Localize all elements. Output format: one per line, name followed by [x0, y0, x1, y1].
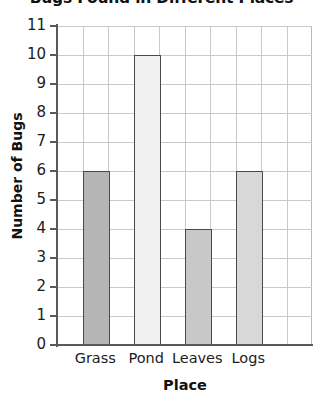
bar-pond	[134, 55, 161, 345]
bar-grass	[83, 171, 110, 345]
y-tick-4	[50, 228, 57, 230]
plot-area	[57, 26, 312, 345]
y-tick-label-3: 3	[20, 250, 46, 265]
y-axis-line	[56, 24, 58, 347]
y-tick-11	[50, 25, 57, 27]
x-axis-label: Place	[57, 377, 313, 393]
y-tick-label-0: 0	[20, 337, 46, 352]
plot-right-border	[311, 26, 312, 345]
y-tick-10	[50, 54, 57, 56]
y-tick-label-1: 1	[20, 308, 46, 323]
y-tick-label-11: 11	[20, 18, 46, 33]
chart-title: Bugs Found in Different Places	[0, 0, 323, 7]
y-tick-label-6: 6	[20, 163, 46, 178]
y-tick-7	[50, 141, 57, 143]
bar-logs	[236, 171, 263, 345]
y-tick-8	[50, 112, 57, 114]
y-tick-2	[50, 286, 57, 288]
y-tick-5	[50, 199, 57, 201]
y-tick-label-8: 8	[20, 105, 46, 120]
bar-leaves	[185, 229, 212, 345]
y-tick-0	[50, 344, 57, 346]
y-tick-label-9: 9	[20, 76, 46, 91]
y-tick-label-5: 5	[20, 192, 46, 207]
y-tick-1	[50, 315, 57, 317]
y-tick-6	[50, 170, 57, 172]
y-tick-label-10: 10	[20, 47, 46, 62]
y-tick-9	[50, 83, 57, 85]
x-axis-line	[50, 344, 313, 346]
y-tick-label-4: 4	[20, 221, 46, 236]
bar-chart: Bugs Found in Different Places Number of…	[0, 0, 323, 398]
x-tick-label-logs: Logs	[208, 350, 288, 366]
y-tick-label-2: 2	[20, 279, 46, 294]
y-tick-3	[50, 257, 57, 259]
gridline-x-9	[287, 26, 288, 345]
y-tick-label-7: 7	[20, 134, 46, 149]
